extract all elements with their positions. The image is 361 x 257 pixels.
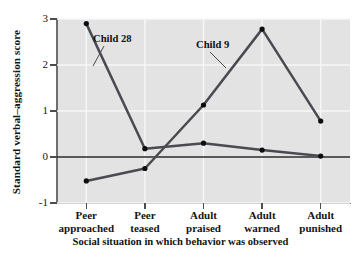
y-tick-mark bbox=[50, 156, 57, 157]
x-tick-label: Adultpunished bbox=[266, 209, 361, 234]
series-label-child-28: Child 28 bbox=[93, 33, 132, 44]
x-tick-label-line: punished bbox=[266, 222, 361, 235]
y-tick-mark bbox=[50, 110, 57, 111]
y-tick-label: 1 bbox=[22, 104, 48, 116]
x-tick-label-line: Adult bbox=[266, 209, 361, 222]
y-tick-label: 0 bbox=[22, 150, 48, 162]
y-tick-mark bbox=[50, 64, 57, 65]
y-tick-label: -1 bbox=[22, 196, 48, 208]
y-axis-title: Standard verbal–aggression score bbox=[10, 12, 22, 212]
chart-figure: 3210-1 PeerapproachedPeerteasedAdultprai… bbox=[0, 0, 361, 257]
y-tick-mark bbox=[50, 202, 57, 203]
y-tick-label: 3 bbox=[22, 12, 48, 24]
series-label-child-9: Child 9 bbox=[196, 39, 229, 50]
x-axis-title: Social situation in which behavior was o… bbox=[0, 236, 361, 247]
y-tick-label: 2 bbox=[22, 58, 48, 70]
y-tick-mark bbox=[50, 18, 57, 19]
